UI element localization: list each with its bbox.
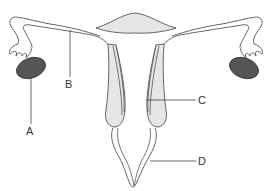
label-b: B — [65, 78, 72, 90]
reproductive-system-diagram: A B C D — [0, 0, 269, 191]
left-fallopian-tube — [9, 17, 108, 58]
uterus-fundus — [96, 13, 176, 33]
right-ovary — [226, 53, 261, 82]
label-a: A — [26, 125, 34, 137]
right-fallopian-tube — [164, 17, 263, 58]
vagina — [112, 128, 157, 187]
label-d: D — [198, 155, 206, 167]
label-c: C — [198, 94, 206, 106]
vagina-inner — [117, 128, 150, 186]
